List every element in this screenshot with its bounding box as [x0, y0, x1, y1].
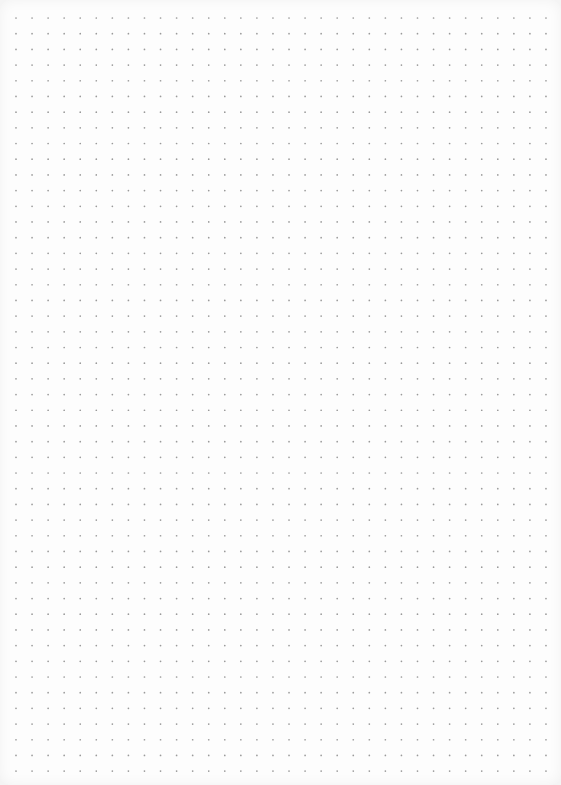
grid-dot: [240, 770, 242, 772]
grid-dot: [417, 347, 419, 349]
grid-dot: [529, 409, 531, 411]
grid-dot: [497, 33, 499, 35]
grid-dot: [144, 17, 146, 19]
grid-dot: [272, 613, 274, 615]
grid-dot: [47, 17, 49, 19]
grid-dot: [144, 268, 146, 270]
grid-dot: [417, 755, 419, 757]
grid-dot: [529, 378, 531, 380]
grid-dot: [256, 723, 258, 725]
grid-dot: [63, 441, 65, 443]
grid-dot: [401, 755, 403, 757]
grid-dot: [240, 96, 242, 98]
grid-dot: [352, 409, 354, 411]
grid-dot: [529, 504, 531, 506]
grid-dot: [240, 253, 242, 255]
grid-dot: [545, 613, 547, 615]
grid-dot: [401, 315, 403, 317]
grid-dot: [112, 425, 114, 427]
grid-dot: [144, 64, 146, 66]
grid-dot: [47, 739, 49, 741]
grid-dot: [304, 441, 306, 443]
grid-dot: [481, 127, 483, 129]
grid-dot: [385, 362, 387, 364]
grid-dot: [513, 535, 515, 537]
grid-dot: [63, 331, 65, 333]
grid-dot: [160, 205, 162, 207]
grid-dot: [256, 127, 258, 129]
grid-dot: [433, 64, 435, 66]
grid-dot: [304, 723, 306, 725]
grid-dot: [497, 613, 499, 615]
grid-dot: [31, 660, 33, 662]
grid-dot: [63, 770, 65, 772]
grid-dot: [465, 49, 467, 51]
grid-dot: [513, 127, 515, 129]
grid-dot: [545, 394, 547, 396]
grid-dot: [513, 551, 515, 553]
grid-dot: [272, 770, 274, 772]
grid-dot: [272, 566, 274, 568]
grid-dot: [401, 64, 403, 66]
grid-dot: [288, 566, 290, 568]
grid-dot: [144, 394, 146, 396]
grid-dot: [401, 551, 403, 553]
grid-dot: [79, 33, 81, 35]
grid-dot: [368, 613, 370, 615]
grid-dot: [112, 17, 114, 19]
grid-dot: [95, 80, 97, 82]
grid-dot: [304, 692, 306, 694]
grid-dot: [417, 378, 419, 380]
grid-dot: [529, 645, 531, 647]
grid-dot: [385, 660, 387, 662]
grid-dot: [176, 708, 178, 710]
grid-dot: [449, 205, 451, 207]
grid-dot: [208, 174, 210, 176]
grid-dot: [417, 143, 419, 145]
grid-dot: [433, 394, 435, 396]
grid-dot: [497, 739, 499, 741]
grid-dot: [385, 205, 387, 207]
grid-dot: [385, 504, 387, 506]
grid-dot: [63, 205, 65, 207]
grid-dot: [336, 143, 338, 145]
grid-dot: [545, 456, 547, 458]
grid-dot: [79, 284, 81, 286]
grid-dot: [176, 535, 178, 537]
grid-dot: [15, 441, 17, 443]
grid-dot: [144, 441, 146, 443]
grid-dot: [240, 80, 242, 82]
grid-dot: [79, 488, 81, 490]
grid-dot: [497, 284, 499, 286]
grid-dot: [401, 504, 403, 506]
grid-dot: [256, 205, 258, 207]
grid-dot: [352, 504, 354, 506]
grid-dot: [368, 409, 370, 411]
grid-dot: [31, 174, 33, 176]
grid-dot: [240, 143, 242, 145]
grid-dot: [529, 315, 531, 317]
grid-dot: [272, 64, 274, 66]
grid-dot: [288, 425, 290, 427]
grid-dot: [208, 111, 210, 113]
grid-dot: [79, 347, 81, 349]
grid-dot: [128, 347, 130, 349]
grid-dot: [160, 237, 162, 239]
grid-dot: [368, 17, 370, 19]
grid-dot: [288, 472, 290, 474]
grid-dot: [272, 284, 274, 286]
grid-dot: [401, 378, 403, 380]
grid-dot: [529, 629, 531, 631]
grid-dot: [176, 519, 178, 521]
grid-dot: [336, 551, 338, 553]
grid-dot: [240, 284, 242, 286]
grid-dot: [128, 535, 130, 537]
grid-dot: [481, 190, 483, 192]
grid-dot: [336, 221, 338, 223]
grid-dot: [79, 253, 81, 255]
grid-dot: [15, 49, 17, 51]
grid-dot: [272, 17, 274, 19]
grid-dot: [465, 723, 467, 725]
grid-dot: [224, 770, 226, 772]
grid-dot: [95, 770, 97, 772]
